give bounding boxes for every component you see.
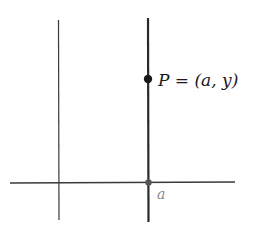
point-a-on-axis [145,179,151,185]
diagram-canvas: P = (a, y) a [0,0,262,231]
x-axis [10,182,235,183]
vertical-line-x-equals-a [148,18,149,222]
point-p-label: P = (a, y) [157,70,238,90]
y-axis [59,20,60,220]
point-p [144,75,152,83]
tick-label-a: a [157,186,165,202]
